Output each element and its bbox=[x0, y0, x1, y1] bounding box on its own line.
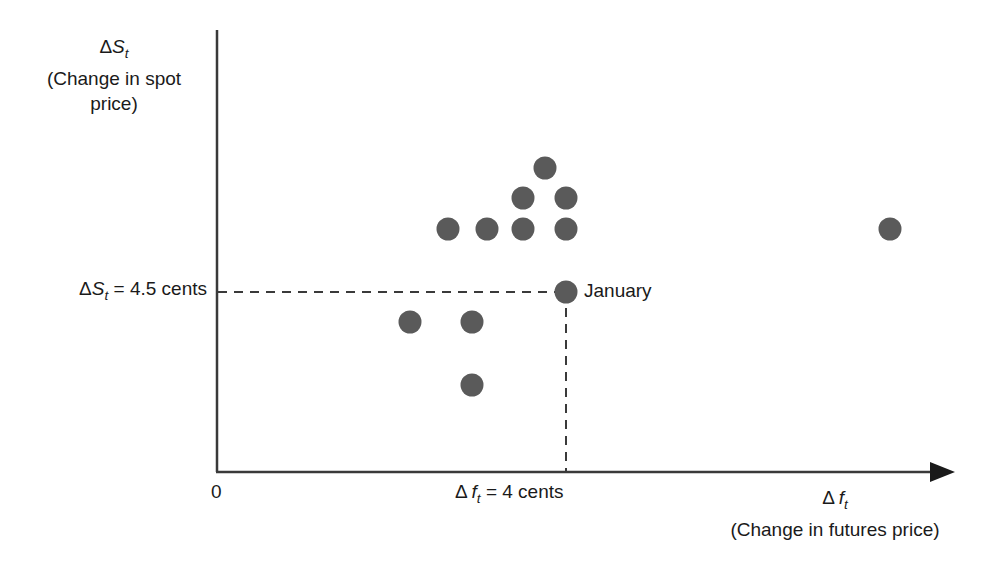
data-point bbox=[555, 187, 578, 210]
data-point bbox=[476, 218, 499, 241]
axes-group bbox=[216, 30, 955, 482]
data-point bbox=[461, 374, 484, 397]
plot-canvas bbox=[0, 0, 982, 561]
x-axis-arrow-icon bbox=[930, 462, 955, 482]
data-point bbox=[534, 157, 557, 180]
data-point bbox=[555, 218, 578, 241]
scatter-plot-figure: ΔSt (Change in spot price) 0 ΔSt = 4.5 c… bbox=[0, 0, 982, 561]
data-point bbox=[512, 218, 535, 241]
data-point bbox=[461, 311, 484, 334]
reference-lines-group bbox=[218, 292, 566, 472]
data-point bbox=[879, 218, 902, 241]
data-point bbox=[555, 281, 578, 304]
data-points-group bbox=[399, 157, 902, 397]
data-point bbox=[399, 311, 422, 334]
data-point bbox=[437, 218, 460, 241]
data-point bbox=[512, 187, 535, 210]
